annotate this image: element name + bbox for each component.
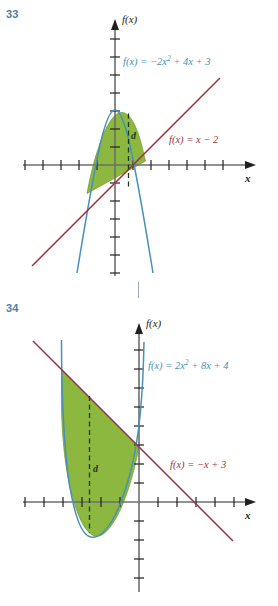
quadratic-eq-prefix-33: f(x) = −2x xyxy=(123,56,167,67)
graph-33 xyxy=(0,0,278,290)
x-axis-arrow-34 xyxy=(245,498,256,506)
y-axis-label-33: f(x) xyxy=(122,14,137,25)
distance-label-34: d xyxy=(93,464,98,474)
quadratic-equation-label-34: f(x) = 2x2 + 8x + 4 xyxy=(148,361,228,372)
line-curve-33 xyxy=(32,78,220,266)
quadratic-eq-suffix-34: + 8x + 4 xyxy=(189,360,229,371)
x-axis-arrow-33 xyxy=(245,161,256,169)
graph-34 xyxy=(0,290,278,606)
y-axis-label-34: f(x) xyxy=(146,318,161,329)
figure-34: 34 xyxy=(0,290,278,606)
x-axis-label-34: x xyxy=(245,510,251,521)
figure-33: 33 xyxy=(0,0,278,290)
linear-equation-label-34: f(x) = −x + 3 xyxy=(170,460,226,471)
distance-label-33: d xyxy=(131,131,136,141)
quadratic-equation-label-33: f(x) = −2x2 + 4x + 3 xyxy=(123,57,211,68)
y-axis-arrow-34 xyxy=(135,323,143,334)
shaded-region-34 xyxy=(61,370,139,536)
x-axis-label-33: x xyxy=(245,173,251,184)
y-axis-arrow-33 xyxy=(111,19,119,30)
linear-equation-label-33: f(x) = x − 2 xyxy=(169,135,218,146)
quadratic-eq-prefix-34: f(x) = 2x xyxy=(148,360,185,371)
quadratic-eq-suffix-33: + 4x + 3 xyxy=(171,56,211,67)
